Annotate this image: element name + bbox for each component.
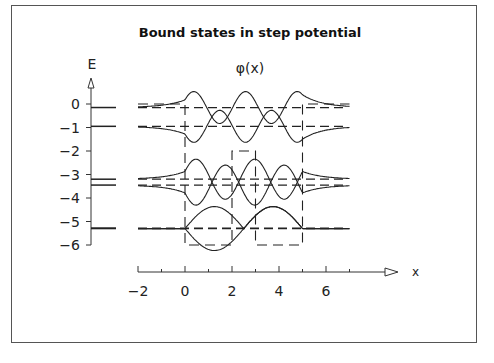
x-tick-label: 0 (181, 283, 190, 299)
y-tick-label: −1 (59, 120, 80, 136)
y-tick-label: −5 (59, 214, 80, 230)
x-tick-label: 2 (228, 283, 237, 299)
x-axis-arrow-icon (385, 268, 398, 276)
x-tick-label: 6 (322, 283, 331, 299)
y-tick-label: −6 (59, 237, 80, 253)
y-axis-arrow-icon (88, 78, 94, 88)
wavefunction-label: φ(x) (236, 60, 264, 76)
energy-reference-lines (138, 108, 348, 229)
y-tick-label: −3 (59, 167, 80, 183)
x-axis: x −20246 (128, 265, 419, 299)
y-tick-label: −2 (59, 143, 80, 159)
x-axis-label: x (412, 265, 419, 279)
step-potential-outline (138, 104, 350, 245)
chart-canvas: Bound states in step potential E φ(x) 0−… (0, 0, 494, 363)
x-tick-label: 4 (275, 283, 284, 299)
y-axis: 0−1−2−3−4−5−6 (59, 78, 94, 253)
chart-title: Bound states in step potential (139, 25, 361, 40)
wavefunction-curves (138, 92, 350, 251)
y-tick-label: 0 (71, 96, 80, 112)
y-tick-label: −4 (59, 190, 80, 206)
y-axis-label: E (88, 56, 97, 72)
x-tick-label: −2 (128, 283, 149, 299)
energy-level-markers (91, 108, 116, 229)
